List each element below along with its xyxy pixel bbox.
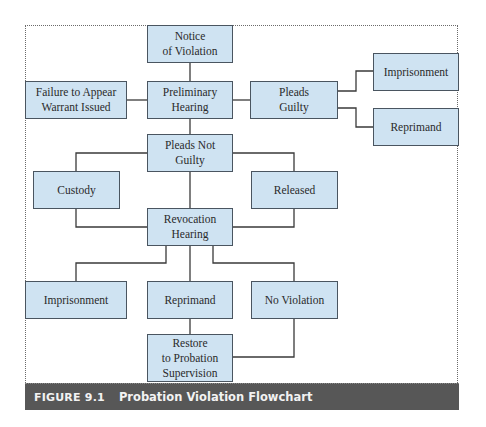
node-released: Released xyxy=(251,171,338,209)
figure-title: Probation Violation Flowchart xyxy=(119,390,313,404)
node-custody: Custody xyxy=(33,171,120,209)
node-imprisonment-top: Imprisonment xyxy=(373,53,459,91)
node-restore-probation: Restore to Probation Supervision xyxy=(147,334,233,382)
node-pleads-not-guilty: Pleads Not Guilty xyxy=(147,134,233,172)
node-notice-of-violation: Notice of Violation xyxy=(147,25,233,63)
node-imprisonment-bottom: Imprisonment xyxy=(25,281,127,319)
figure-caption: FIGURE 9.1 Probation Violation Flowchart xyxy=(25,383,459,410)
node-revocation-hearing: Revocation Hearing xyxy=(147,208,233,246)
node-failure-to-appear: Failure to Appear Warrant Issued xyxy=(25,81,127,119)
node-pleads-guilty: Pleads Guilty xyxy=(250,81,338,119)
node-reprimand-bottom: Reprimand xyxy=(147,281,233,319)
node-preliminary-hearing: Preliminary Hearing xyxy=(147,81,233,119)
figure-number: FIGURE 9.1 xyxy=(34,391,105,404)
node-reprimand-top: Reprimand xyxy=(373,108,459,146)
node-no-violation: No Violation xyxy=(251,281,338,319)
